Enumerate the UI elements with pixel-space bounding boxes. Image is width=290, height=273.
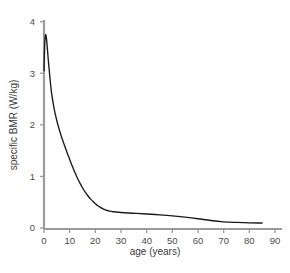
x-tick-label: 20 [90, 235, 101, 246]
y-tick-label: 4 [30, 16, 35, 27]
x-axis-title: age (years) [130, 246, 181, 257]
x-tick-label: 0 [41, 235, 46, 246]
x-tick-label: 70 [218, 235, 229, 246]
plot-canvas: 01234 specific BMR (W/kg) 01020304050607… [0, 0, 290, 273]
y-tick-label: 0 [30, 222, 35, 233]
y-axis-title: specific BMR (W/kg) [8, 80, 19, 171]
x-tick-label: 60 [193, 235, 204, 246]
x-tick-label: 30 [116, 235, 127, 246]
x-tick-label: 40 [141, 235, 152, 246]
x-tick-label: 80 [244, 235, 255, 246]
x-tick-label: 90 [270, 235, 281, 246]
chart-figure: 01234 specific BMR (W/kg) 01020304050607… [0, 0, 290, 273]
x-tick-label: 50 [167, 235, 178, 246]
y-tick-label: 3 [30, 68, 35, 79]
y-tick-label: 1 [30, 171, 35, 182]
x-tick-label: 10 [64, 235, 75, 246]
y-tick-label: 2 [30, 119, 35, 130]
